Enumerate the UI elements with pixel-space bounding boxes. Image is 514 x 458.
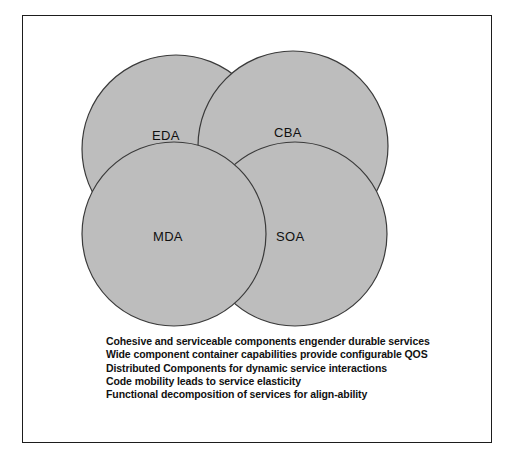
venn-label-eda: EDA	[152, 128, 180, 143]
venn-diagram: EDA CBA MDA SOA	[1, 1, 514, 341]
venn-label-mda: MDA	[153, 229, 183, 244]
caption-line: Functional decomposition of services for…	[106, 388, 466, 401]
venn-svg	[1, 1, 514, 341]
venn-label-soa: SOA	[276, 229, 304, 244]
figure-root: EDA CBA MDA SOA Cohesive and serviceable…	[0, 0, 514, 458]
caption-line: Distributed Components for dynamic servi…	[106, 362, 466, 375]
figure-frame: EDA CBA MDA SOA Cohesive and serviceable…	[22, 15, 492, 443]
caption-line: Cohesive and serviceable components enge…	[106, 335, 466, 348]
caption-line: Code mobility leads to service elasticit…	[106, 375, 466, 388]
caption-line: Wide component container capabilities pr…	[106, 348, 466, 361]
venn-label-cba: CBA	[274, 125, 302, 140]
caption-block: Cohesive and serviceable components enge…	[106, 335, 466, 401]
